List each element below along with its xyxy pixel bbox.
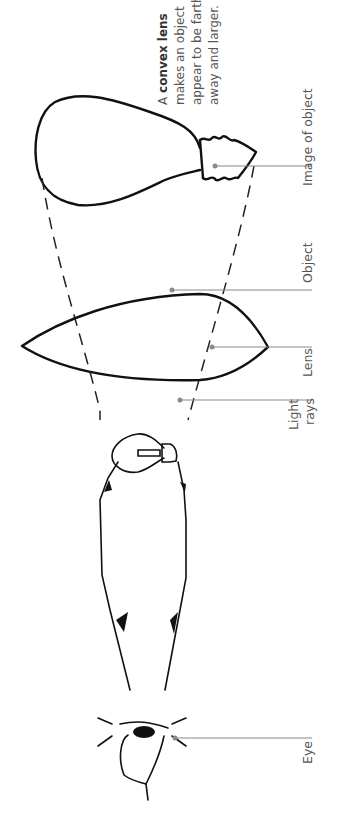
caption-line-1: A convex lens: [156, 13, 170, 105]
caption-line-4: away and larger.: [207, 5, 221, 105]
leaders: [170, 164, 313, 741]
arrowhead-icon: [116, 612, 128, 632]
caption-line-3: appear to be farther: [190, 0, 204, 105]
object-bulb-icon: [112, 434, 177, 472]
eye-icon: [98, 718, 186, 800]
label-lens: Lens: [300, 348, 315, 377]
convex-lens-shape: [22, 294, 268, 380]
caption-line-2: makes an object: [173, 6, 187, 105]
dashed-projection-left: [42, 178, 100, 420]
convex-lens-diagram: A convex lens makes an object appear to …: [0, 0, 348, 814]
caption: A convex lens makes an object appear to …: [156, 0, 221, 105]
arrowhead-icon: [180, 482, 186, 492]
label-object: Object: [300, 242, 315, 283]
label-image-of-object: Image of object: [300, 88, 315, 186]
light-rays: [100, 462, 186, 690]
label-light-rays-line-2: rays: [302, 398, 317, 425]
label-eye: Eye: [300, 741, 315, 764]
label-light-rays-line-1: Light: [286, 399, 301, 430]
image-bulb-icon: [36, 96, 256, 205]
